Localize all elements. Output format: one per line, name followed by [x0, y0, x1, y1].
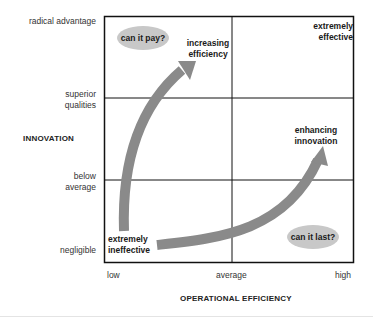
y-level-label: below average — [65, 171, 96, 192]
x-level-low: low — [107, 270, 120, 280]
label-line: innovation — [291, 136, 341, 147]
y-axis-title: INNOVATION — [23, 134, 74, 143]
bubble-can-it-last: can it last? — [287, 225, 339, 249]
footer-divider — [0, 316, 373, 317]
label-extremely-ineffective: extremely ineffective — [108, 234, 156, 255]
x-axis-title: OPERATIONAL EFFICIENCY — [180, 294, 292, 303]
y-level-below-average: below average — [46, 171, 96, 193]
y-level-label: superior qualities — [65, 89, 96, 110]
y-level-label: radical advantage — [29, 16, 96, 26]
label-line: enhancing — [291, 125, 341, 136]
label-line: increasing — [183, 38, 233, 49]
label-line: efficiency — [183, 49, 233, 60]
x-level-average: average — [216, 270, 247, 280]
x-level-high: high — [335, 270, 351, 280]
label-enhancing-innovation: enhancing innovation — [291, 125, 341, 146]
y-level-negligible: negligible — [60, 245, 96, 256]
label-line: effective — [303, 32, 353, 43]
label-increasing-efficiency: increasing efficiency — [183, 38, 233, 59]
y-level-radical-advantage: radical advantage — [29, 16, 96, 27]
label-extremely-effective: extremely effective — [303, 21, 353, 42]
label-line: extremely — [108, 234, 156, 245]
y-level-superior-qualities: superior qualities — [36, 89, 96, 111]
label-line: ineffective — [108, 245, 156, 256]
y-level-label: negligible — [60, 245, 96, 255]
arrow-to-increasing-efficiency — [124, 70, 182, 231]
bubble-can-it-pay: can it pay? — [117, 26, 169, 50]
label-line: extremely — [303, 21, 353, 32]
